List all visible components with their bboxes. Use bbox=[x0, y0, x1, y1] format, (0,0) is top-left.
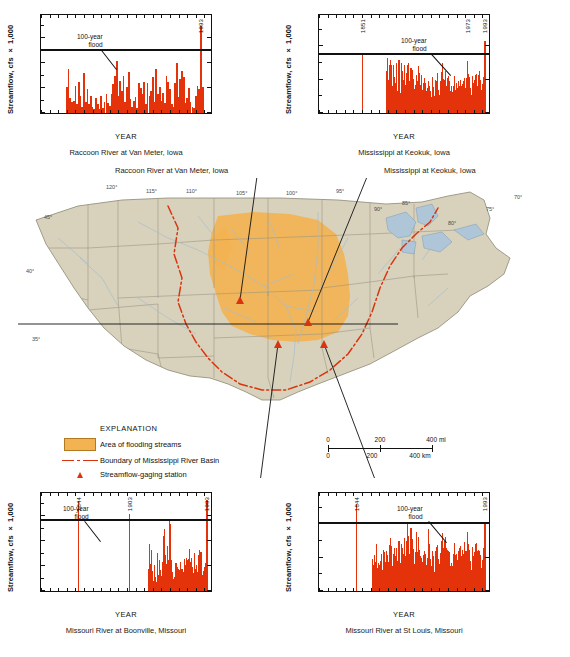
x-tick-minor bbox=[127, 493, 128, 496]
flooding-area-swatch-icon bbox=[60, 438, 100, 451]
y-tick-label: 0 bbox=[318, 581, 319, 588]
year-annotation-1851: 1851 bbox=[360, 19, 366, 33]
x-tick-minor bbox=[110, 588, 111, 591]
x-tick-minor bbox=[187, 588, 188, 591]
x-tick-minor bbox=[153, 493, 154, 496]
flood-annotation-label: 100-yearflood bbox=[397, 505, 423, 520]
map-label-105: 105° bbox=[236, 190, 247, 196]
x-tick-minor bbox=[161, 15, 162, 18]
y-tick-minor bbox=[41, 75, 44, 76]
y-tick-mark bbox=[41, 540, 45, 541]
x-tick-minor bbox=[127, 110, 128, 113]
x-tick-minor bbox=[67, 110, 68, 113]
legend-row-flooding-area: Area of flooding streams bbox=[60, 438, 219, 451]
map-label-115: 115° bbox=[146, 188, 157, 194]
x-tick-minor bbox=[379, 110, 380, 113]
x-tick-minor bbox=[328, 110, 329, 113]
x-tick-minor bbox=[67, 15, 68, 18]
x-tick-minor bbox=[405, 588, 406, 591]
map-label-lat40: 40° bbox=[26, 268, 34, 274]
x-tick-minor bbox=[118, 493, 119, 496]
x-tick-minor bbox=[439, 588, 440, 591]
x-tick-minor bbox=[84, 493, 85, 496]
x-tick-minor bbox=[474, 15, 475, 18]
x-tick-minor bbox=[396, 110, 397, 113]
y-tick-mark bbox=[319, 79, 323, 80]
x-tick-minor bbox=[405, 110, 406, 113]
year-annotation-1993: 1993 bbox=[204, 497, 210, 511]
x-tick-minor bbox=[482, 15, 483, 18]
x-tick-minor bbox=[362, 15, 363, 18]
x-tick-minor bbox=[431, 493, 432, 496]
x-tick-minor bbox=[110, 493, 111, 496]
y-axis-title: Streamflow, cfs × 1,000 bbox=[6, 14, 15, 114]
x-tick-minor bbox=[482, 493, 483, 496]
y-tick-minor bbox=[319, 95, 322, 96]
scale-km-200: 200 bbox=[367, 452, 378, 459]
hundred-year-flood-line bbox=[41, 49, 211, 51]
x-tick-minor bbox=[379, 15, 380, 18]
map-label-75: 75° bbox=[486, 206, 494, 212]
x-tick-minor bbox=[448, 110, 449, 113]
map-label-100: 100° bbox=[286, 190, 297, 196]
chart-caption: Mississippi at Keokuk, Iowa bbox=[358, 148, 450, 157]
bar bbox=[362, 53, 363, 113]
year-annotation-1844: 1844 bbox=[354, 497, 360, 511]
x-tick-minor bbox=[58, 15, 59, 18]
x-tick-minor bbox=[482, 588, 483, 591]
bar bbox=[129, 514, 130, 592]
bar-series bbox=[41, 15, 211, 113]
scale-bar-line: 0 200 400 mi 0 200 400 km bbox=[328, 448, 432, 449]
y-tick-minor bbox=[319, 62, 322, 63]
x-tick-minor bbox=[204, 110, 205, 113]
x-tick-minor bbox=[422, 588, 423, 591]
x-tick-minor bbox=[196, 110, 197, 113]
bar bbox=[202, 87, 204, 113]
x-tick-minor bbox=[41, 493, 42, 496]
bar bbox=[485, 85, 486, 113]
y-tick-label: 60 bbox=[40, 28, 41, 35]
scale-mi-400: 400 mi bbox=[426, 436, 446, 443]
x-tick-minor bbox=[93, 110, 94, 113]
x-tick-minor bbox=[422, 110, 423, 113]
x-tick-minor bbox=[414, 493, 415, 496]
y-tick-label: 1,000 bbox=[318, 514, 319, 521]
x-tick-minor bbox=[50, 15, 51, 18]
map-label-70: 70° bbox=[514, 194, 522, 200]
legend-row-gaging-station: Streamflow-gaging station bbox=[60, 470, 219, 479]
x-tick-minor bbox=[362, 493, 363, 496]
y-tick-mark bbox=[485, 557, 489, 558]
flood-annotation-label: 100-yearflood bbox=[77, 33, 103, 48]
y-tick-minor bbox=[41, 553, 44, 554]
x-tick-minor bbox=[136, 493, 137, 496]
x-tick-minor bbox=[336, 588, 337, 591]
x-tick-minor bbox=[101, 15, 102, 18]
x-tick-minor bbox=[439, 15, 440, 18]
year-annotation-1844: 1844 bbox=[76, 497, 82, 511]
x-tick-minor bbox=[353, 15, 354, 18]
x-tick-minor bbox=[353, 588, 354, 591]
explanation-legend: EXPLANATION Area of flooding streams Bou… bbox=[60, 424, 219, 484]
x-axis-title: YEAR bbox=[393, 132, 415, 141]
x-axis-title: YEAR bbox=[115, 610, 137, 619]
x-tick-minor bbox=[448, 493, 449, 496]
y-tick-mark bbox=[207, 37, 211, 38]
x-tick-minor bbox=[319, 493, 320, 496]
y-tick-mark bbox=[207, 565, 211, 566]
chart-caption: Missouri River at Boonville, Missouri bbox=[66, 626, 186, 635]
x-tick-minor bbox=[101, 493, 102, 496]
x-tick-minor bbox=[405, 493, 406, 496]
x-tick-minor bbox=[144, 15, 145, 18]
x-axis-title: YEAR bbox=[393, 610, 415, 619]
x-tick-minor bbox=[465, 588, 466, 591]
map-label-95: 95° bbox=[336, 188, 344, 194]
plot-area: 100-yearflood185119731993020040060018001… bbox=[318, 14, 490, 114]
year-annotation-1993: 1993 bbox=[198, 19, 204, 33]
map-label-110: 110° bbox=[186, 188, 197, 194]
x-tick-minor bbox=[457, 15, 458, 18]
x-tick-minor bbox=[84, 110, 85, 113]
x-tick-minor bbox=[75, 493, 76, 496]
x-tick-minor bbox=[41, 110, 42, 113]
x-tick-minor bbox=[179, 110, 180, 113]
x-tick-minor bbox=[474, 493, 475, 496]
